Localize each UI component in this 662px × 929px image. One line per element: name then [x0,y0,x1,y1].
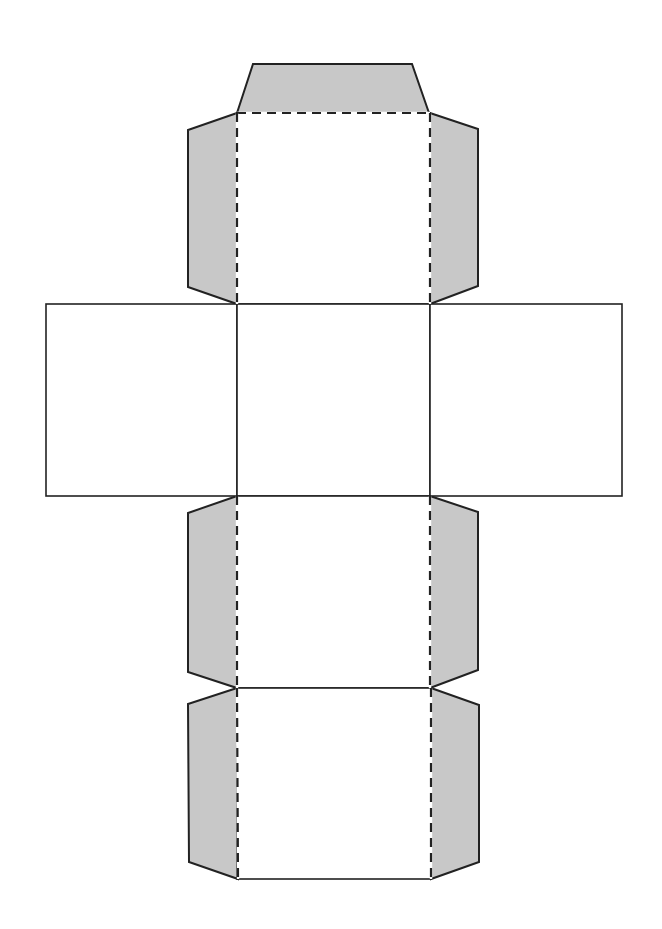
face-center [237,304,430,496]
tab-lower-left [188,496,237,688]
face-lower [237,496,430,688]
tab-lower-right [430,496,478,688]
face-top [237,113,430,304]
tab-bottom-left [188,688,238,879]
tab-top-cap [237,64,429,113]
cube-faces [46,113,622,879]
face-right [430,304,622,496]
face-left [46,304,237,496]
cube-net-diagram [0,0,662,929]
tab-top-right [430,113,478,304]
face-bottom [237,688,431,879]
tab-bottom-right [431,688,479,879]
tab-top-left [188,113,237,304]
